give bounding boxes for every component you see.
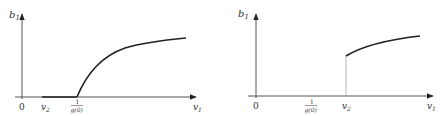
left-tick-v2: v2 — [41, 102, 50, 113]
left-y-label: b1 — [9, 9, 20, 22]
left-tick-one-over-g0: 1 g(0) — [71, 98, 84, 114]
svg-text:g(0): g(0) — [71, 106, 84, 114]
left-origin-label: 0 — [19, 102, 25, 112]
left-curve — [77, 38, 186, 97]
svg-text:g(0): g(0) — [305, 106, 318, 114]
left-x-label: v1 — [193, 102, 202, 113]
right-panel: b1 0 1 g(0) v2 v1 — [238, 8, 436, 114]
right-curve — [346, 36, 420, 56]
svg-text:1: 1 — [76, 98, 80, 105]
right-tick-v2: v2 — [342, 101, 351, 112]
left-panel: b1 0 v2 1 g(0) v1 — [9, 9, 202, 114]
diagram-canvas: b1 0 v2 1 g(0) v1 b1 0 1 g(0) v2 v1 — [0, 0, 441, 116]
svg-text:1: 1 — [310, 98, 314, 105]
right-origin-label: 0 — [253, 101, 259, 111]
right-y-label: b1 — [238, 8, 249, 21]
right-tick-one-over-g0: 1 g(0) — [305, 98, 318, 114]
right-x-label: v1 — [427, 101, 436, 112]
